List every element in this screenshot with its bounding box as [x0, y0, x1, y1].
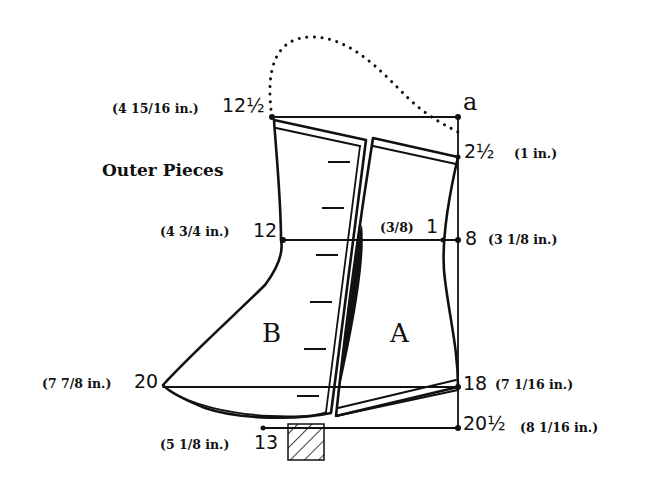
mid-left-measurement: (4 3/4 in.) — [160, 224, 229, 239]
low-right-measurement: (7 1/16 in.) — [495, 377, 573, 392]
low-right-number: 18 — [463, 372, 487, 394]
dart-wedge — [337, 225, 363, 400]
bottom-center-measurement: (5 1/8 in.) — [160, 437, 229, 452]
hatched-block — [288, 424, 324, 460]
corner-label: a — [463, 88, 477, 116]
mid-center-number: 1 — [426, 215, 438, 237]
bottom-center-number: 13 — [254, 431, 278, 453]
mid-left-number: 12 — [253, 219, 277, 241]
top-right-number: 2½ — [464, 140, 495, 162]
top-left-measurement: (4 15/16 in.) — [112, 101, 199, 116]
low-left-measurement: (7 7/8 in.) — [42, 376, 111, 391]
piece-a-label: A — [390, 318, 409, 348]
point-markers — [261, 114, 462, 431]
piece-b-label: B — [262, 318, 281, 348]
mid-right-measurement: (3 1/8 in.) — [488, 232, 557, 247]
mid-center-measurement: (3/8) — [380, 220, 414, 235]
low-left-number: 20 — [134, 370, 158, 392]
mid-right-number: 8 — [465, 227, 477, 249]
top-left-number: 12½ — [222, 94, 265, 116]
top-right-measurement: (1 in.) — [514, 146, 557, 161]
diagram-title: Outer Pieces — [102, 160, 224, 180]
bottom-right-number: 20½ — [463, 412, 506, 434]
bottom-right-measurement: (8 1/16 in.) — [520, 420, 598, 435]
